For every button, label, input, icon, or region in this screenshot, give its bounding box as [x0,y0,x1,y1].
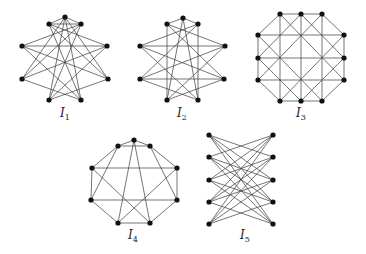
vertex-dot [270,154,275,159]
vertex-dot [277,98,282,103]
vertex-dot [195,21,200,26]
vertex-dot [131,137,136,142]
edge [22,24,81,79]
graph-I3: I3 [255,11,346,122]
vertex-dot [341,32,346,37]
edge [150,200,177,223]
edge [91,146,118,200]
edge [301,14,344,58]
vertex-dot [62,14,67,19]
vertex-dot [319,11,324,16]
edge [167,79,224,100]
edge [322,14,344,35]
graph-I4: I4 [88,137,179,244]
vertex-dot [137,43,142,48]
vertex-dot [206,199,211,204]
graph-label-i5: I5 [239,228,250,244]
vertex-dot [78,21,83,26]
edge [258,80,280,101]
edge [49,24,108,79]
vertex-dot [46,97,51,102]
vertex-dot [115,143,120,148]
vertex-dot [195,97,200,102]
edge [322,80,344,101]
vertex-dot [206,132,211,137]
graph-label-i2: I2 [176,106,187,122]
vertex-dot [180,15,185,20]
edge [22,79,81,100]
graph-label-i1: I1 [59,106,70,122]
vertex-dot [115,220,120,225]
vertex-dot [88,197,93,202]
edge [167,24,225,46]
vertex-dot [147,143,152,148]
edge [140,24,198,46]
vertex-dot [341,77,346,82]
vertex-dot [78,97,83,102]
vertex-dot [19,43,24,48]
vertex-dot [147,220,152,225]
edge [150,146,177,200]
vertex-dot [137,76,142,81]
vertex-dot [164,21,169,26]
graph-figure: I1 I2 I3 I4 I5 [0,0,366,254]
edge [92,146,118,168]
edge [91,200,118,223]
edge [258,58,301,101]
edge [49,79,108,100]
vertex-dot [298,11,303,16]
edge [150,146,177,168]
vertex-dot [206,154,211,159]
edge [258,14,280,35]
vertex-dot [319,98,324,103]
vertex-dot [277,11,282,16]
edge [91,168,92,200]
vertex-dot [298,98,303,103]
vertex-dot [221,76,226,81]
vertex-dot [174,197,179,202]
edge [140,79,198,100]
edge [301,58,344,101]
vertex-dot [255,55,260,60]
graph-I1: I1 [19,14,110,122]
vertex-dot [255,32,260,37]
graph-I5: I5 [206,132,275,244]
vertex-dot [46,21,51,26]
vertex-dot [104,43,109,48]
vertex-dot [255,77,260,82]
vertex-dot [341,55,346,60]
vertex-dot [105,76,110,81]
graph-label-i3: I3 [295,106,306,122]
vertex-dot [222,43,227,48]
vertex-dot [206,177,211,182]
graph-label-i4: I4 [127,228,138,244]
vertex-dot [270,132,275,137]
vertex-dot [174,165,179,170]
vertex-dot [19,76,24,81]
vertex-dot [206,221,211,226]
graph-I2: I2 [137,15,227,122]
vertex-dot [270,221,275,226]
edge [258,14,301,58]
vertex-dot [89,165,94,170]
edge [22,17,65,79]
vertex-dot [270,199,275,204]
vertex-dot [270,177,275,182]
vertex-dot [164,97,169,102]
